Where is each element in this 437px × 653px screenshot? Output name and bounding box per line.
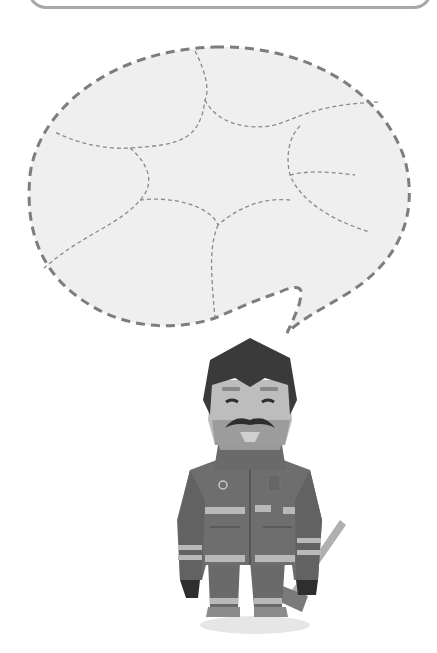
firefighter-character [177, 338, 346, 634]
left-glove [180, 580, 200, 598]
speech-bubble [29, 47, 409, 333]
right-glove [296, 580, 318, 595]
ground-shadow [200, 616, 310, 634]
left-boot [206, 607, 240, 617]
illustration [0, 0, 437, 653]
reflective-stripe [205, 507, 245, 514]
right-boot [254, 607, 288, 617]
